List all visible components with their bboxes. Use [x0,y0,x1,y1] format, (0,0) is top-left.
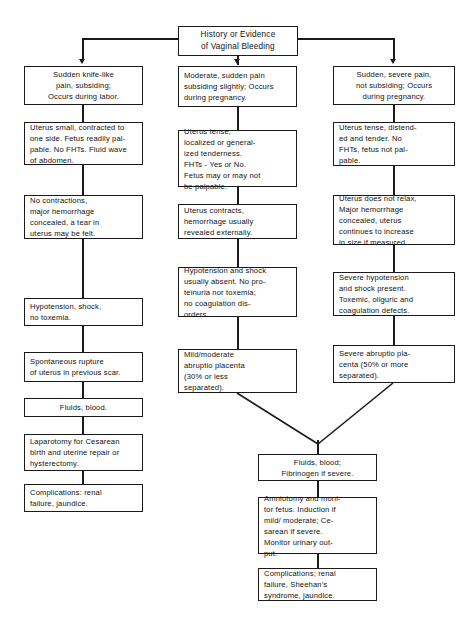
node-l8: Complications: renal failure, jaundice. [24,484,143,512]
diagonal-from-mid [237,393,318,444]
node-root-label: History or Evidence of Vaginal Bleeding [201,29,276,53]
node-b2: Amniotomy and moni- tor fetus. Induction… [258,497,377,554]
node-l5-label: Spontaneous rupture of uterus in previou… [30,356,137,378]
node-l1: Sudden knife-like pain, subsiding; Occur… [24,66,143,105]
node-root: History or Evidence of Vaginal Bleeding [178,26,298,56]
flowchart-canvas: History or Evidence of Vaginal Bleeding … [0,0,471,624]
node-m3: Uterus contracts, hemorrhage usually rev… [178,204,297,239]
node-r1: Sudden, severe pain, not subsiding; Occu… [333,66,455,105]
node-r5: Severe abruptio pla- centa (50% or more … [333,345,455,383]
node-l3: No contractions, major hemorrhage concea… [24,195,143,239]
node-r2: Uterus tense, distend- ed and tender. No… [333,122,455,166]
node-l4: Hypotension, shock, no toxemia. [24,298,143,326]
node-b1: Fluids, blood; Fibrinogen if severe. [258,454,377,481]
node-m3-label: Uterus contracts, hemorrhage usually rev… [184,205,291,238]
node-m4-label: Hypotension and shock usually absent. No… [184,265,291,320]
node-b2-label: Amniotomy and moni- tor fetus. Induction… [264,493,371,559]
node-l6: Fluids, blood. [24,398,143,417]
node-l3-label: No contractions, major hemorrhage concea… [30,195,137,239]
node-m2-label: Uterus tense, localized or general- ized… [184,126,291,192]
node-b3-label: Complications; renal failure, Sheehan's … [264,568,371,601]
node-m2: Uterus tense, localized or general- ized… [178,130,297,187]
node-m5: Mild/moderate abruptio placenta (30% or … [178,349,297,393]
node-b3: Complications; renal failure, Sheehan's … [258,568,377,601]
node-m4: Hypotension and shock usually absent. No… [178,267,297,317]
diagonal-from-right [318,383,393,444]
node-l8-label: Complications: renal failure, jaundice. [30,487,137,509]
connector-merge-stub [317,440,319,454]
node-l5: Spontaneous rupture of uterus in previou… [24,352,143,382]
arrow-to-left-col [79,59,85,64]
node-l6-label: Fluids, blood. [60,402,107,413]
node-l2: Uterus small, contracted to one side. Fe… [24,122,143,165]
node-r1-label: Sudden, severe pain, not subsiding; Occu… [356,69,432,102]
node-r3-label: Uterus does not relax, Major hemorrhage … [339,193,449,248]
node-r4: Severe hypotension and shock present. To… [333,272,455,316]
node-l2-label: Uterus small, contracted to one side. Fe… [30,122,137,166]
node-m5-label: Mild/moderate abruptio placenta (30% or … [184,349,291,393]
arrow-to-mid-col [234,59,240,64]
node-r4-label: Severe hypotension and shock present. To… [339,272,449,316]
node-r5-label: Severe abruptio pla- centa (50% or more … [339,348,449,381]
node-m1-label: Moderate, sudden pain subsiding slightly… [184,70,291,103]
node-l7: Laparotomy for Cesarean birth and uterin… [24,434,143,471]
node-l1-label: Sudden knife-like pain, subsiding; Occur… [48,69,119,102]
node-m1: Moderate, sudden pain subsiding slightly… [178,66,297,107]
node-r3: Uterus does not relax, Major hemorrhage … [333,195,455,245]
arrow-to-right-col [390,59,396,64]
node-l7-label: Laparotomy for Cesarean birth and uterin… [30,436,137,469]
node-l4-label: Hypotension, shock, no toxemia. [30,301,137,323]
node-b1-label: Fluids, blood; Fibrinogen if severe. [282,457,354,479]
node-r2-label: Uterus tense, distend- ed and tender. No… [339,122,449,166]
